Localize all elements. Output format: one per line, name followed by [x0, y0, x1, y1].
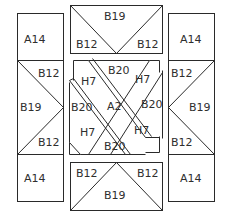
quilt-block-diagram: A14 B12 B19 B12 A14 A14 B12 B19 B12 A14 …	[0, 0, 225, 219]
center-top-label: B20	[108, 64, 130, 77]
left-mid-center-label: B19	[20, 101, 42, 114]
right-mid-bottom-label: B12	[171, 136, 193, 149]
bottom-block: B12 B12 B19	[71, 163, 163, 211]
center-left-label: B20	[71, 101, 93, 114]
center-label: A2	[107, 100, 122, 113]
right-mid-top-label: B12	[171, 67, 193, 80]
chamfer	[70, 79, 74, 81]
left-mid-top-label: B12	[38, 67, 60, 80]
right-column: A14 B12 B19 B12 A14	[169, 14, 215, 202]
center-bottom-left-label: H7	[80, 126, 95, 139]
center-bottom-label: B20	[104, 140, 126, 153]
right-top-label: A14	[180, 33, 202, 46]
top-block-center-label: B19	[104, 10, 126, 23]
center-bottom-right-label: H7	[134, 124, 149, 137]
bottom-block-left-label: B12	[76, 167, 98, 180]
top-block-right-label: B12	[137, 38, 159, 51]
right-mid-center-label: B19	[189, 101, 211, 114]
left-bottom-label: A14	[24, 172, 46, 185]
h7-bottom-right-outline	[146, 137, 160, 153]
left-mid-bottom-label: B12	[38, 136, 60, 149]
h7-top-right-outline	[150, 61, 160, 73]
bottom-block-center-label: B19	[104, 189, 126, 202]
top-block-left-label: B12	[76, 38, 98, 51]
chamfer	[70, 143, 81, 155]
center-top-right-label: H7	[135, 73, 150, 86]
center-right-label: B20	[141, 98, 163, 111]
left-top-label: A14	[24, 33, 46, 46]
right-bottom-label: A14	[180, 172, 202, 185]
center-block: B20 H7 H7 B20 A2 B20 H7 H7 B20	[70, 59, 163, 155]
bottom-block-right-label: B12	[137, 167, 159, 180]
top-block: B19 B12 B12	[71, 6, 163, 54]
left-column: A14 B12 B19 B12 A14	[18, 14, 64, 202]
center-top-left-label: H7	[81, 75, 96, 88]
